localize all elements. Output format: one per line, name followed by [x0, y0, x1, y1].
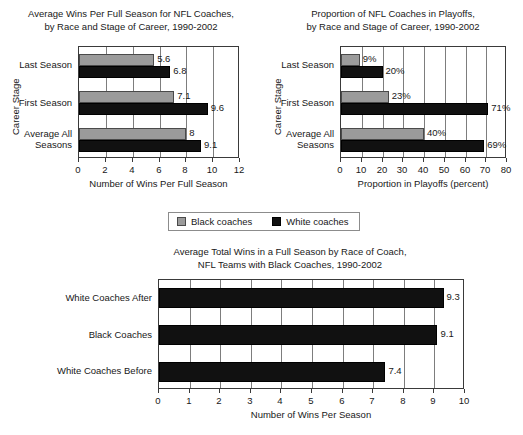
- chart-panel-proportion-in-playoffs: Proportion of NFL Coaches in Playoffs, b…: [262, 0, 523, 200]
- bar-value-label: 7.4: [388, 366, 401, 376]
- x-tick: [372, 389, 373, 393]
- x-tick-label: 5: [308, 395, 313, 406]
- x-tick: [382, 158, 383, 162]
- bar: [341, 54, 360, 66]
- x-tick: [158, 389, 159, 393]
- x-tick: [342, 389, 343, 393]
- x-tick: [403, 389, 404, 393]
- x-tick: [485, 158, 486, 162]
- x-tick-label: 6: [156, 164, 161, 175]
- bar-value-label: 9.6: [211, 103, 224, 113]
- bar-value-label: 40%: [427, 128, 446, 138]
- legend-label: White coaches: [286, 216, 348, 227]
- x-tick-label: 4: [129, 164, 134, 175]
- bar: [79, 140, 201, 152]
- bar-value-label: 9%: [363, 54, 377, 64]
- x-tick-label: 12: [234, 164, 245, 175]
- bar: [79, 54, 154, 66]
- y-tick-label: Last Season: [262, 59, 334, 70]
- x-tick: [105, 158, 106, 162]
- bar-value-label: 7.1: [177, 91, 190, 101]
- x-axis-title: Proportion in Playoffs (percent): [340, 178, 506, 189]
- x-tick-label: 60: [460, 164, 471, 175]
- x-tick-label: 10: [356, 164, 367, 175]
- legend-label: Black coaches: [191, 216, 252, 227]
- x-tick: [219, 389, 220, 393]
- x-tick: [423, 158, 424, 162]
- bar: [159, 362, 385, 382]
- x-tick: [185, 158, 186, 162]
- y-tick-label: First Season: [262, 97, 334, 108]
- x-axis-title: Number of Wins Per Season: [158, 409, 464, 420]
- x-tick-label: 40: [418, 164, 429, 175]
- x-tick: [402, 158, 403, 162]
- bar: [341, 140, 484, 152]
- chart-panel-wins-per-full-season: Average Wins Per Full Season for NFL Coa…: [0, 0, 262, 200]
- x-tick: [444, 158, 445, 162]
- x-tick: [159, 158, 160, 162]
- x-tick-label: 50: [439, 164, 450, 175]
- bar-value-label: 9.1: [440, 329, 453, 339]
- x-axis-title: Number of Wins Per Full Season: [78, 178, 239, 189]
- y-tick-label: Average All Seasons: [262, 128, 334, 150]
- x-tick-label: 8: [400, 395, 405, 406]
- x-tick-label: 0: [337, 164, 342, 175]
- bar: [341, 128, 424, 140]
- bar-value-label: 69%: [487, 140, 506, 150]
- gray-swatch-icon: [177, 217, 186, 226]
- bar: [341, 103, 488, 115]
- x-tick-label: 6: [339, 395, 344, 406]
- bar: [159, 288, 444, 308]
- bar: [79, 128, 186, 140]
- y-tick-label: Average All Seasons: [0, 128, 72, 150]
- bar-value-label: 6.8: [173, 66, 186, 76]
- bar-value-label: 5.6: [157, 54, 170, 64]
- x-tick-label: 10: [459, 395, 470, 406]
- x-tick-label: 2: [102, 164, 107, 175]
- bar: [341, 66, 383, 78]
- x-tick: [189, 389, 190, 393]
- x-tick-label: 10: [207, 164, 218, 175]
- x-tick-label: 30: [397, 164, 408, 175]
- y-tick-label: Last Season: [0, 59, 72, 70]
- bar-value-label: 20%: [386, 66, 405, 76]
- x-tick-label: 8: [182, 164, 187, 175]
- chart-panel-total-wins-black-coach-teams: Average Total Wins in a Full Season by R…: [0, 240, 523, 435]
- x-tick-label: 0: [75, 164, 80, 175]
- legend-entry-black-coaches: Black coaches: [177, 216, 252, 227]
- x-tick-label: 0: [155, 395, 160, 406]
- chart-title: Average Total Wins in a Full Season by R…: [140, 246, 440, 271]
- x-tick: [506, 158, 507, 162]
- chart-title: Average Wins Per Full Season for NFL Coa…: [8, 8, 254, 33]
- y-tick-label: First Season: [0, 97, 72, 108]
- x-tick: [311, 389, 312, 393]
- bar-value-label: 8: [189, 128, 194, 138]
- legend: Black coaches White coaches: [168, 212, 360, 231]
- x-tick-label: 7: [369, 395, 374, 406]
- x-tick-label: 1: [186, 395, 191, 406]
- x-tick-label: 9: [430, 395, 435, 406]
- x-tick: [465, 158, 466, 162]
- bar: [79, 66, 170, 78]
- x-tick: [464, 389, 465, 393]
- x-tick-label: 80: [501, 164, 512, 175]
- x-tick-label: 20: [377, 164, 388, 175]
- bar: [159, 325, 437, 345]
- legend-entry-white-coaches: White coaches: [272, 216, 348, 227]
- bar: [341, 91, 389, 103]
- x-tick: [280, 389, 281, 393]
- bar: [79, 91, 174, 103]
- y-tick-label: White Coaches After: [12, 292, 152, 303]
- x-tick: [361, 158, 362, 162]
- bar-value-label: 71%: [491, 103, 510, 113]
- x-tick-label: 4: [277, 395, 282, 406]
- bar-value-label: 9.1: [204, 140, 217, 150]
- bar: [79, 103, 208, 115]
- x-tick-label: 2: [216, 395, 221, 406]
- black-swatch-icon: [272, 217, 281, 226]
- bar-value-label: 9.3: [447, 292, 460, 302]
- y-tick-label: White Coaches Before: [12, 365, 152, 376]
- bar-value-label: 23%: [392, 91, 411, 101]
- x-tick: [433, 389, 434, 393]
- x-tick: [340, 158, 341, 162]
